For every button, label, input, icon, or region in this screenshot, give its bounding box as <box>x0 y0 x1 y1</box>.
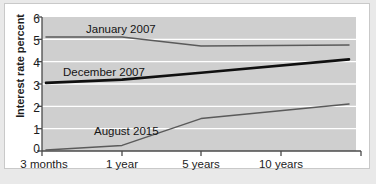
y-tick-label-2: 2 <box>24 102 40 114</box>
x-tick-label-10-years: 10 years <box>242 159 320 171</box>
y-tick-label-4: 4 <box>24 57 40 69</box>
x-tick-label-1-year: 1 year <box>83 159 161 171</box>
chart-canvas <box>5 4 371 170</box>
y-tick-label-0: 0 <box>24 143 40 155</box>
x-tick-label-3-months: 3 months <box>5 159 83 171</box>
y-tick-label-1: 1 <box>24 124 40 136</box>
x-tick-label-5-years: 5 years <box>162 159 240 171</box>
series-annotation-january-2007: January 2007 <box>86 24 156 36</box>
y-tick-label-5: 5 <box>24 35 40 47</box>
series-annotation-december-2007: December 2007 <box>63 67 145 79</box>
x-axis-spine <box>42 151 361 156</box>
y-tick-label-3: 3 <box>24 80 40 92</box>
y-tick-label-6: 6 <box>24 13 40 25</box>
series-annotation-august-2015: August 2015 <box>94 126 159 138</box>
interest-rate-yield-curve-chart: Interest rate percent 6 5 4 3 2 1 0 <box>5 4 371 170</box>
figure-card: Interest rate percent 6 5 4 3 2 1 0 <box>4 3 370 169</box>
